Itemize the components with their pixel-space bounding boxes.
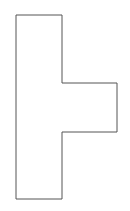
t-shape-outline <box>16 15 117 199</box>
diagram-canvas <box>0 0 130 211</box>
